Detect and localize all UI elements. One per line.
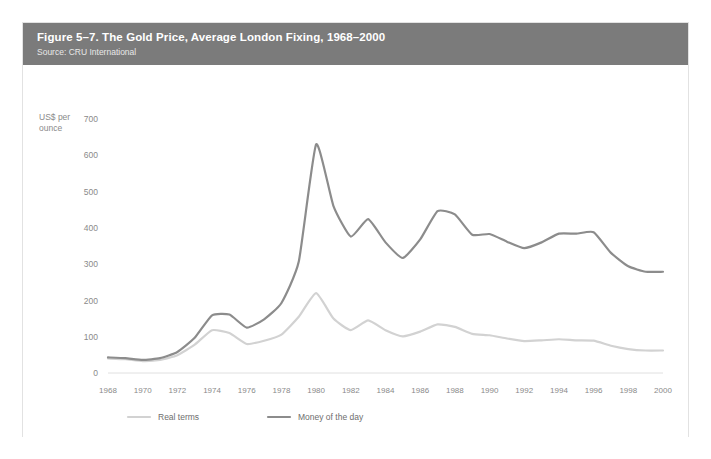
x-axis-tick-label: 1984 [377, 386, 395, 395]
x-axis-tick-label: 1996 [585, 386, 603, 395]
y-axis-tick-label: 300 [84, 259, 98, 269]
x-axis-tick-label: 1982 [342, 386, 360, 395]
page-title: Figure 5–7. The Gold Price, Average Lond… [37, 30, 688, 44]
x-axis-tick-label: 1988 [446, 386, 464, 395]
x-axis-tick-label: 1998 [619, 386, 637, 395]
figure-container: Figure 5–7. The Gold Price, Average Lond… [22, 22, 689, 437]
x-axis-tick-label: 1986 [411, 386, 429, 395]
x-axis-tick-label: 1990 [481, 386, 499, 395]
y-axis-tick-label: 0 [93, 368, 98, 378]
x-axis-tick-label: 1976 [238, 386, 256, 395]
legend-label: Real terms [158, 412, 199, 422]
chart-plot-area: US$ per ounce 0100200300400500600700 196… [23, 65, 688, 438]
x-axis-tick-label: 1972 [168, 386, 186, 395]
x-axis-tick-label: 1992 [515, 386, 533, 395]
x-axis-ticks: 1968197019721974197619781980198219841986… [99, 386, 672, 395]
legend-label: Money of the day [298, 412, 364, 422]
y-axis-tick-label: 500 [84, 187, 98, 197]
x-axis-tick-label: 1994 [550, 386, 568, 395]
figure-header: Figure 5–7. The Gold Price, Average Lond… [23, 23, 688, 65]
y-axis-tick-label: 700 [84, 114, 98, 124]
x-axis-tick-label: 1968 [99, 386, 117, 395]
series-line-money-of-the-day [108, 144, 663, 360]
y-axis-tick-label: 200 [84, 296, 98, 306]
y-axis-tick-label: 400 [84, 223, 98, 233]
chart-legend: Real termsMoney of the day [128, 412, 364, 422]
y-axis-caption: US$ per ounce [39, 112, 70, 133]
x-axis-tick-label: 1970 [134, 386, 152, 395]
figure-source: Source: CRU International [37, 46, 688, 58]
x-axis-tick-label: 1980 [307, 386, 325, 395]
x-axis-tick-label: 1974 [203, 386, 221, 395]
y-axis-caption-line1: US$ per [39, 112, 70, 122]
x-axis-tick-label: 2000 [654, 386, 672, 395]
x-axis-tick-label: 1978 [273, 386, 291, 395]
y-axis-tick-label: 100 [84, 332, 98, 342]
line-chart: US$ per ounce 0100200300400500600700 196… [23, 65, 690, 438]
y-axis-caption-line2: ounce [39, 123, 62, 133]
y-axis-tick-label: 600 [84, 150, 98, 160]
series-line-real-terms [108, 293, 663, 361]
y-axis-ticks: 0100200300400500600700 [84, 114, 98, 378]
